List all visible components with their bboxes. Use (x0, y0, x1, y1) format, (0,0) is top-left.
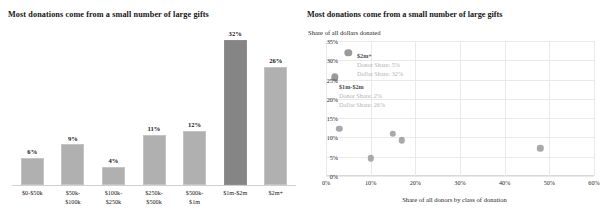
bar-category-label: $0-$50k (12, 188, 53, 206)
bar-chart-plot-area: 6%9%4%11%12%32%26% (12, 26, 296, 186)
scatter-chart-title: Most donations come from a small number … (307, 10, 503, 19)
bar-rect (102, 167, 125, 185)
scatter-y-tick-label: 10% (314, 134, 338, 141)
scatter-x-tick-label: 40% (499, 179, 510, 186)
scatter-x-tick-label: 10% (365, 179, 376, 186)
scatter-y-tick-label: 25% (314, 76, 338, 83)
bar-group: 32% (215, 26, 256, 185)
scatter-x-tick-label: 30% (454, 179, 465, 186)
bar-chart-x-axis-labels: $0-$50k$50k- $100k$100k- $250k$250k- $50… (12, 188, 296, 206)
scatter-chart-x-axis-label: Share of all donors by class of donation (300, 196, 609, 203)
bar-category-label: $1m-$2m (215, 188, 256, 206)
bar-chart-panel: Most donations come from a small number … (0, 0, 300, 223)
scatter-x-tick-label: 60% (588, 179, 599, 186)
annotation-1m-2m-header: $1m-$2m (339, 82, 385, 91)
scatter-point (336, 125, 342, 131)
bar-chart-baseline (12, 185, 296, 186)
scatter-point (399, 137, 405, 143)
bar-rect (224, 40, 247, 185)
scatter-y-tick-label: 15% (314, 115, 338, 122)
scatter-y-tick-label: 30% (314, 57, 338, 64)
scatter-x-tick-label: 0% (322, 179, 330, 186)
annotation-2m-plus: $2m+ Donor Share: 5% Dollar Share: 32% (357, 51, 403, 79)
bar-category-label: $100k- $250k (93, 188, 134, 206)
bar-group: 11% (134, 26, 175, 185)
bar-value-label: 32% (229, 31, 242, 38)
dual-chart-figure: Most donations come from a small number … (0, 0, 609, 223)
bar-rect (264, 67, 287, 185)
gridline-vertical (594, 41, 595, 176)
scatter-point (537, 145, 543, 151)
bar-value-label: 9% (68, 136, 78, 143)
bar-category-label: $250k- $500k (134, 188, 175, 206)
scatter-x-tick-label: 50% (544, 179, 555, 186)
bar-value-label: 11% (148, 126, 161, 133)
gridline-vertical (505, 41, 506, 176)
bar-group: 12% (174, 26, 215, 185)
annotation-2m-plus-header: $2m+ (357, 51, 403, 60)
bar-value-label: 12% (188, 122, 201, 129)
scatter-y-tick-label: 20% (314, 95, 338, 102)
bar-group: 9% (53, 26, 94, 185)
bar-category-label: $2m+ (255, 188, 296, 206)
bar-category-label: $50k- $100k (53, 188, 94, 206)
scatter-y-tick-label: 5% (314, 153, 338, 160)
scatter-chart-y-axis-label: Share of all dollars donated (308, 29, 381, 36)
bar-category-label: $500k- $1m (174, 188, 215, 206)
gridline-vertical (415, 41, 416, 176)
gridline-vertical (460, 41, 461, 176)
bar-group: 4% (93, 26, 134, 185)
scatter-point (367, 155, 373, 161)
annotation-1m-2m: $1m-$2m Donor Share: 2% Dollar Share: 26… (339, 82, 385, 110)
annotation-1m-2m-dollar-share: Dollar Share: 26% (339, 100, 385, 109)
bar-value-label: 4% (109, 158, 119, 165)
scatter-x-tick-label: 20% (410, 179, 421, 186)
bar-value-label: 6% (27, 149, 37, 156)
annotation-2m-plus-donor-share: Donor Share: 5% (357, 60, 403, 69)
bar-rect (143, 135, 166, 185)
scatter-point (345, 49, 352, 56)
bar-series: 6%9%4%11%12%32%26% (12, 26, 296, 185)
bar-group: 26% (255, 26, 296, 185)
bar-rect (61, 144, 84, 185)
gridline-horizontal (326, 176, 594, 177)
bar-rect (183, 131, 206, 186)
scatter-chart-panel: Most donations come from a small number … (300, 0, 609, 223)
bar-rect (21, 158, 44, 185)
gridline-vertical (549, 41, 550, 176)
scatter-point (390, 130, 396, 136)
bar-group: 6% (12, 26, 53, 185)
annotation-1m-2m-donor-share: Donor Share: 2% (339, 91, 385, 100)
annotation-2m-plus-dollar-share: Dollar Share: 32% (357, 69, 403, 78)
bar-chart-title: Most donations come from a small number … (8, 10, 209, 19)
scatter-y-tick-label: 35% (314, 38, 338, 45)
bar-value-label: 26% (269, 58, 282, 65)
